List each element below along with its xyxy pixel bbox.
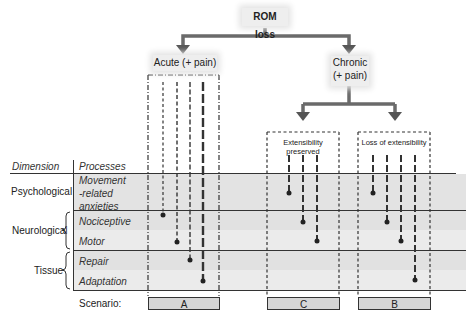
chronic-line-1: Chronic <box>331 56 369 69</box>
dimension-psychological: Psychological <box>11 186 72 197</box>
chronic-box: Chronic (+ pain) <box>331 56 369 86</box>
processes-header: Processes <box>79 160 126 173</box>
scenario-label: Scenario: <box>79 298 121 309</box>
process-line-2: -related <box>79 187 126 200</box>
dimension-header: Dimension <box>12 160 59 173</box>
extensibility-preserved-label: Extensibility preserved <box>268 138 338 156</box>
process-movement-related-anxieties: Movement -related anxieties <box>79 174 126 213</box>
loss-of-extensibility-label: Loss of extensibility <box>359 138 429 147</box>
process-adaptation: Adaptation <box>79 275 127 288</box>
process-motor: Motor <box>79 235 105 248</box>
chronic-line-2: (+ pain) <box>331 69 369 82</box>
scenario-b-box: B <box>358 297 431 310</box>
process-repair: Repair <box>79 255 108 268</box>
dimension-tissue: Tissue <box>34 265 63 276</box>
scenario-a-box: A <box>148 297 220 310</box>
process-nociceptive: Nociceptive <box>79 215 131 228</box>
process-line-3: anxieties <box>79 200 126 213</box>
acute-box: Acute (+ pain) <box>153 55 217 71</box>
dimension-neurological: Neurological <box>12 225 68 236</box>
process-line-1: Movement <box>79 174 126 187</box>
tree-connectors <box>0 0 466 321</box>
rom-loss-box: ROM loss <box>242 8 288 26</box>
scenario-c-box: C <box>267 297 340 310</box>
